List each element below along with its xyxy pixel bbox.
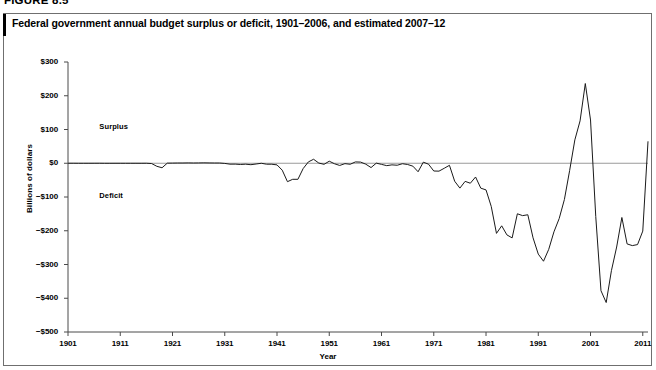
annotation-surplus: Surplus xyxy=(99,122,128,131)
chart-plot-area xyxy=(0,0,656,370)
y-axis-label: Billions of dollars xyxy=(25,119,34,239)
data-line-surplus-deficit xyxy=(68,84,648,303)
y-tick-label: −$300 xyxy=(16,260,58,269)
x-axis-label: Year xyxy=(0,352,656,361)
x-tick-label: 1921 xyxy=(153,339,193,348)
x-tick-label: 1941 xyxy=(257,339,297,348)
y-tick-label: $100 xyxy=(16,125,58,134)
y-tick-label: −$400 xyxy=(16,293,58,302)
x-tick-label: 1961 xyxy=(362,339,402,348)
x-tick-label: 1931 xyxy=(205,339,245,348)
x-tick-label: 1951 xyxy=(309,339,349,348)
y-tick-label: $200 xyxy=(16,91,58,100)
x-tick-label: 1991 xyxy=(518,339,558,348)
x-tick-label: 2011 xyxy=(623,339,656,348)
y-tick-label: −$100 xyxy=(16,192,58,201)
x-tick-label: 1971 xyxy=(414,339,454,348)
x-tick-label: 1901 xyxy=(48,339,88,348)
y-tick-label: −$200 xyxy=(16,226,58,235)
y-tick-label: $0 xyxy=(16,158,58,167)
chart-svg xyxy=(0,0,656,370)
x-tick-label: 2001 xyxy=(571,339,611,348)
x-tick-label: 1911 xyxy=(100,339,140,348)
y-tick-label: −$500 xyxy=(16,327,58,336)
y-tick-label: $300 xyxy=(16,57,58,66)
figure-container: FIGURE 8.5 Federal government annual bud… xyxy=(0,0,656,370)
annotation-deficit: Deficit xyxy=(99,191,123,200)
x-tick-label: 1981 xyxy=(466,339,506,348)
